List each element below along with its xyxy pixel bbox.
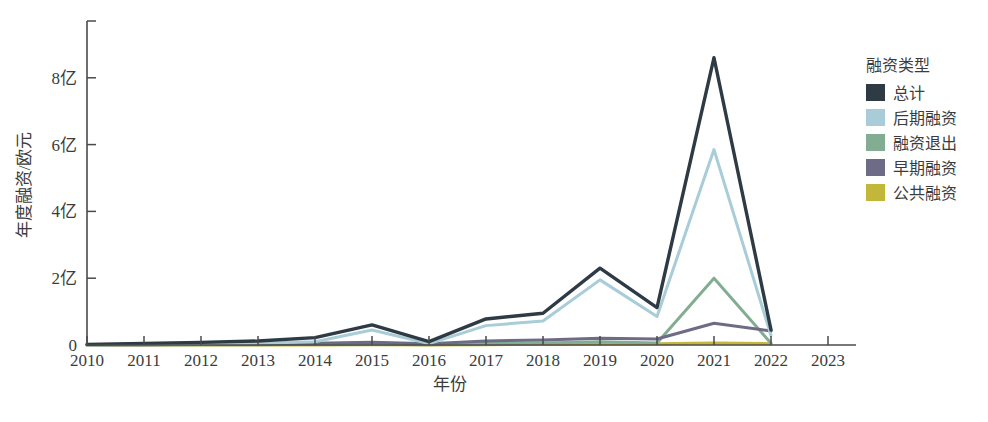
- legend-label: 融资退出: [893, 135, 957, 152]
- x-tick-label: 2016: [412, 351, 446, 370]
- legend: 融资类型 总计后期融资融资退出早期融资公共融资: [866, 57, 957, 202]
- x-tick-label: 2018: [526, 351, 560, 370]
- y-tick-label: 0: [69, 336, 78, 355]
- x-tick-label: 2015: [355, 351, 389, 370]
- x-tick-label: 2022: [754, 351, 788, 370]
- y-tick-label: 4亿: [52, 202, 78, 221]
- y-axis-title: 年度融资/欧元: [15, 132, 34, 239]
- legend-label: 早期融资: [893, 160, 957, 177]
- legend-label: 公共融资: [893, 185, 957, 202]
- legend-swatch: [866, 109, 885, 126]
- legend-swatch: [866, 159, 885, 176]
- legend-swatch: [866, 84, 885, 101]
- legend-label: 后期融资: [893, 110, 957, 127]
- y-tick-label-layer: 02亿4亿6亿8亿: [52, 69, 97, 355]
- line-chart: 2010201120122013201420152016201720182019…: [0, 0, 988, 422]
- x-tick-label: 2017: [469, 351, 504, 370]
- x-tick-label: 2023: [811, 351, 845, 370]
- legend-label: 总计: [893, 85, 925, 102]
- legend-title: 融资类型: [866, 57, 930, 74]
- y-tick-label: 8亿: [52, 69, 78, 88]
- legend-swatch: [866, 184, 885, 201]
- series-line-1: [87, 58, 771, 345]
- x-tick-label: 2021: [697, 351, 731, 370]
- x-tick-label: 2011: [127, 351, 160, 370]
- series-layer: [87, 58, 771, 345]
- x-axis-title: 年份: [433, 375, 467, 394]
- y-tick-label: 2亿: [52, 269, 78, 288]
- x-tick-label: 2012: [184, 351, 218, 370]
- x-tick-label: 2020: [640, 351, 674, 370]
- x-tick-label: 2014: [298, 351, 333, 370]
- legend-swatch: [866, 134, 885, 151]
- y-tick-label: 6亿: [52, 136, 78, 155]
- x-tick-label: 2013: [241, 351, 275, 370]
- series-line-2: [87, 150, 771, 345]
- chart-container: 2010201120122013201420152016201720182019…: [0, 0, 988, 422]
- x-tick-label: 2019: [583, 351, 617, 370]
